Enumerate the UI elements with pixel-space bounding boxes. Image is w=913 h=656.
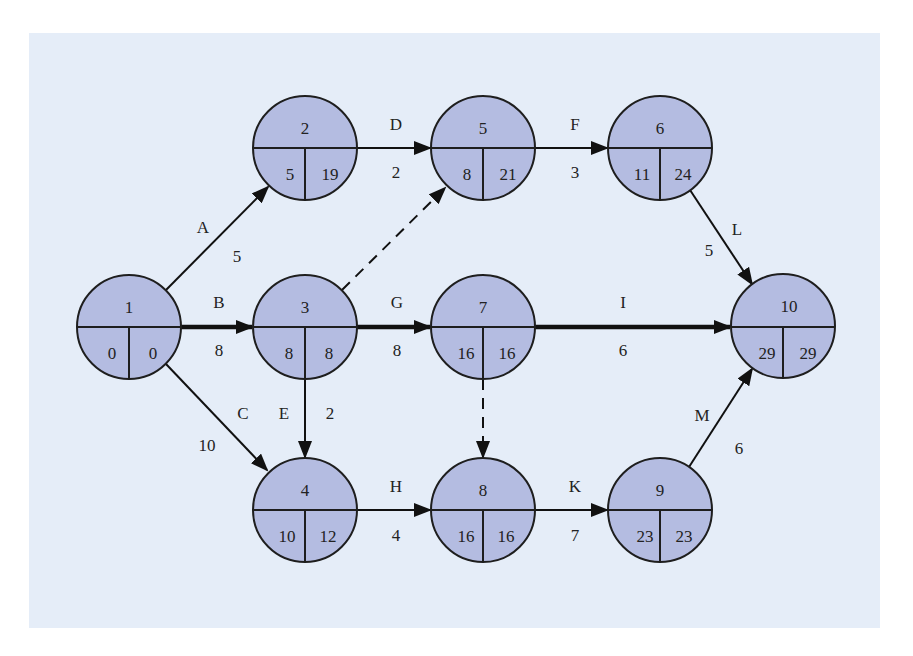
edge-label-H: H xyxy=(390,477,402,496)
edge-label-I: I xyxy=(620,293,626,312)
edge-label-C: C xyxy=(237,404,248,423)
node-late-time: 23 xyxy=(676,527,693,546)
node-8: 8 16 16 xyxy=(431,458,535,562)
node-id: 5 xyxy=(479,119,488,138)
edge-duration-K: 7 xyxy=(571,526,580,545)
edge-C xyxy=(166,364,267,470)
edge-label-K: K xyxy=(569,477,582,496)
node-late-time: 29 xyxy=(800,344,817,363)
node-5: 5 8 21 xyxy=(431,96,535,200)
node-1: 1 0 0 xyxy=(77,275,181,379)
edge-label-G: G xyxy=(391,293,403,312)
node-id: 2 xyxy=(301,119,310,138)
node-id: 3 xyxy=(301,298,310,317)
edge-duration-D: 2 xyxy=(392,163,401,182)
edge-duration-I: 6 xyxy=(619,341,628,360)
edge-duration-E: 2 xyxy=(326,404,335,423)
node-late-time: 0 xyxy=(149,344,158,363)
node-2: 2 5 19 xyxy=(253,96,357,200)
node-3: 3 8 8 xyxy=(253,275,357,379)
edge-duration-F: 3 xyxy=(571,163,580,182)
node-early-time: 0 xyxy=(108,344,117,363)
node-late-time: 19 xyxy=(322,165,339,184)
node-early-time: 8 xyxy=(285,344,294,363)
node-early-time: 23 xyxy=(637,527,654,546)
node-early-time: 8 xyxy=(463,165,472,184)
node-4: 4 10 12 xyxy=(253,458,357,562)
node-id: 10 xyxy=(781,297,798,316)
edge-duration-C: 10 xyxy=(199,436,216,455)
edge-label-M: M xyxy=(694,406,709,425)
edge-A xyxy=(166,187,268,290)
node-id: 9 xyxy=(656,481,665,500)
edge-dummy-3-5 xyxy=(342,188,445,290)
node-early-time: 5 xyxy=(286,165,295,184)
edge-label-F: F xyxy=(570,115,579,134)
node-early-time: 16 xyxy=(458,527,475,546)
node-6: 6 11 24 xyxy=(608,96,712,200)
network-diagram: A 5 B 8 C 10 D 2 E 2 F 3 G 8 H 4 I 6 K 7… xyxy=(0,0,913,656)
node-id: 1 xyxy=(125,298,134,317)
node-id: 4 xyxy=(301,481,310,500)
node-late-time: 24 xyxy=(675,165,693,184)
node-late-time: 8 xyxy=(325,344,334,363)
node-early-time: 10 xyxy=(279,527,296,546)
node-late-time: 16 xyxy=(499,344,516,363)
node-early-time: 11 xyxy=(634,165,650,184)
edge-duration-H: 4 xyxy=(392,526,401,545)
node-early-time: 16 xyxy=(458,344,475,363)
node-id: 6 xyxy=(656,119,665,138)
edge-duration-M: 6 xyxy=(735,439,744,458)
edge-L xyxy=(690,190,752,284)
edge-label-A: A xyxy=(197,218,210,237)
edge-label-D: D xyxy=(390,115,402,134)
node-late-time: 21 xyxy=(500,165,517,184)
edge-duration-B: 8 xyxy=(215,341,224,360)
node-late-time: 12 xyxy=(320,527,337,546)
edge-duration-G: 8 xyxy=(393,341,402,360)
edge-label-L: L xyxy=(732,220,742,239)
node-id: 8 xyxy=(479,481,488,500)
edge-duration-A: 5 xyxy=(233,247,242,266)
node-early-time: 29 xyxy=(759,344,776,363)
node-late-time: 16 xyxy=(498,527,515,546)
node-9: 9 23 23 xyxy=(608,458,712,562)
node-10: 10 29 29 xyxy=(731,274,835,378)
node-id: 7 xyxy=(479,298,488,317)
edge-label-E: E xyxy=(279,404,289,423)
edge-duration-L: 5 xyxy=(705,241,714,260)
edge-label-B: B xyxy=(213,293,224,312)
node-7: 7 16 16 xyxy=(431,275,535,379)
